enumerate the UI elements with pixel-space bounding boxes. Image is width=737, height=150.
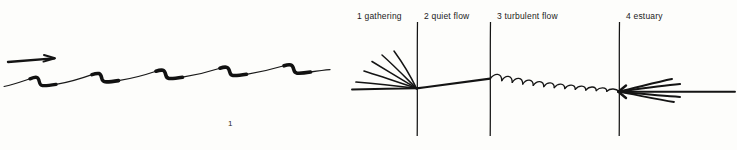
wave-profile-line xyxy=(4,65,330,87)
figure-number-1: 1 xyxy=(228,120,232,128)
river-flow-drawing xyxy=(350,0,737,150)
zone-label-quiet-flow: 2 quiet flow xyxy=(424,12,469,21)
turbulent-flow-channel xyxy=(490,74,619,91)
diagram-page: 1 xyxy=(0,0,737,150)
wave-profile-drawing xyxy=(0,0,350,150)
gathering-tributaries xyxy=(352,51,417,90)
flow-direction-arrow xyxy=(8,55,55,62)
figure-wave-profile: 1 xyxy=(0,0,350,150)
zone-label-estuary: 4 estuary xyxy=(626,12,663,21)
quiet-flow-channel xyxy=(417,79,491,89)
zone-label-turbulent-flow: 3 turbulent flow xyxy=(497,12,558,21)
figure-river-zones: 2 xyxy=(350,0,737,150)
estuary-branches xyxy=(619,79,736,102)
zone-label-gathering: 1 gathering xyxy=(357,12,402,21)
